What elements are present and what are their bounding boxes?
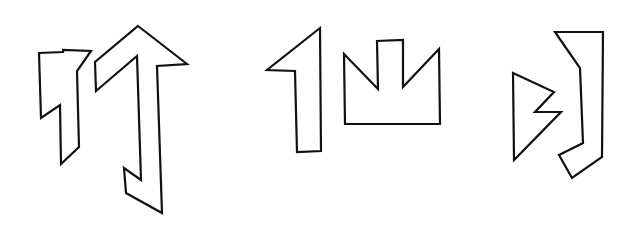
- shape-2-up-arrow: [95, 26, 187, 213]
- shape-3-one-glyph: [267, 28, 321, 152]
- shape-1: [39, 50, 91, 164]
- shape-5-notched-triangle: [513, 73, 561, 160]
- shape-6-bracket: [555, 32, 603, 178]
- shapes-drawing: [0, 0, 637, 234]
- shape-4-crown: [344, 40, 440, 124]
- figure-canvas: [0, 0, 637, 234]
